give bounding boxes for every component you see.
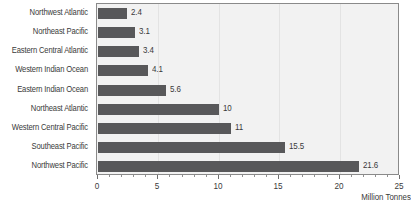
tick-minor [109, 175, 110, 177]
tick-major [399, 175, 400, 179]
tick-minor [242, 175, 243, 177]
bar [98, 123, 231, 134]
tick-minor [254, 175, 255, 177]
tick-minor [363, 175, 364, 177]
tick-minor [290, 175, 291, 177]
tick-minor [387, 175, 388, 177]
bar [98, 85, 166, 96]
category-label: Southeast Pacific [6, 142, 88, 151]
tick-major [339, 175, 340, 179]
tick-minor [133, 175, 134, 177]
category-label: Eastern Indian Ocean [6, 85, 88, 94]
tick-minor [194, 175, 195, 177]
tick-minor [327, 175, 328, 177]
category-label: Western Central Pacific [6, 123, 88, 132]
x-tick-label: 5 [143, 181, 172, 191]
bar [98, 46, 139, 57]
category-label: Northwest Pacific [6, 161, 88, 170]
category-label: Northwest Atlantic [6, 8, 88, 17]
bar [98, 142, 285, 153]
tick-minor [302, 175, 303, 177]
tick-minor [169, 175, 170, 177]
value-label: 5.6 [170, 85, 181, 94]
category-label: Northeast Atlantic [6, 104, 88, 113]
tick-minor [121, 175, 122, 177]
x-axis-title: Million Tonnes [361, 192, 411, 202]
category-axis-labels: Northwest AtlanticNortheast PacificEaste… [0, 3, 92, 175]
tick-minor [182, 175, 183, 177]
x-tick-label: 10 [204, 181, 233, 191]
tick-minor [266, 175, 267, 177]
value-label: 3.1 [139, 27, 150, 36]
tick-major [157, 175, 158, 179]
tick-minor [145, 175, 146, 177]
tick-minor [375, 175, 376, 177]
x-tick-label: 0 [83, 181, 112, 191]
value-label: 15.5 [289, 142, 304, 151]
tick-minor [351, 175, 352, 177]
value-label: 3.4 [143, 46, 154, 55]
value-label: 21.6 [363, 161, 378, 170]
bar [98, 8, 127, 19]
tick-minor [206, 175, 207, 177]
tick-major [218, 175, 219, 179]
x-tick-label: 15 [264, 181, 293, 191]
tick-minor [230, 175, 231, 177]
category-label: Eastern Central Atlantic [6, 46, 88, 55]
bar [98, 65, 148, 76]
x-tick-label: 20 [324, 181, 353, 191]
value-label: 4.1 [152, 65, 163, 74]
category-label: Northeast Pacific [6, 27, 88, 36]
value-label: 11 [235, 123, 243, 132]
tick-minor [314, 175, 315, 177]
x-axis-ticks [96, 175, 399, 180]
bar [98, 27, 135, 38]
bar [98, 104, 219, 115]
value-label: 2.4 [131, 8, 142, 17]
x-tick-label: 25 [385, 181, 413, 191]
gridline [340, 4, 341, 174]
value-label: 10 [223, 104, 232, 113]
tick-major [278, 175, 279, 179]
bar [98, 161, 359, 172]
category-label: Western Indian Ocean [6, 65, 88, 74]
bar-chart: Northwest AtlanticNortheast PacificEaste… [0, 0, 413, 205]
tick-major [97, 175, 98, 179]
